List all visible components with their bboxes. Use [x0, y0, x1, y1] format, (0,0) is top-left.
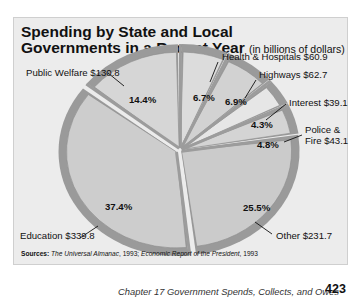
- pct-health: 6.7%: [193, 92, 215, 103]
- label-other: Other $231.7: [276, 230, 332, 241]
- page-number: 423: [325, 282, 346, 296]
- pct-other: 25.5%: [243, 202, 271, 213]
- label-highways: Highways $62.7: [259, 69, 327, 80]
- label-health: Health & Hospitals $60.9: [222, 51, 328, 62]
- pct-police-fire: 4.8%: [257, 139, 279, 150]
- label-police-fire-2: Fire $43.1: [305, 135, 348, 146]
- label-police-fire-1: Police &: [305, 124, 341, 135]
- label-interest: Interest $39.1: [289, 97, 348, 108]
- pct-highways: 6.9%: [225, 96, 247, 107]
- pct-interest: 4.3%: [251, 119, 273, 130]
- pct-education: 37.4%: [105, 201, 133, 212]
- label-education: Education $339.8: [20, 230, 95, 241]
- chapter-footer: Chapter 17 Government Spends, Collects, …: [118, 286, 339, 297]
- sources-note: Sources: The Universal Almanac, 1993; Ec…: [21, 250, 258, 257]
- label-public-welfare: Public Welfare $130.8: [26, 67, 120, 78]
- pct-public-welfare: 14.4%: [129, 94, 157, 105]
